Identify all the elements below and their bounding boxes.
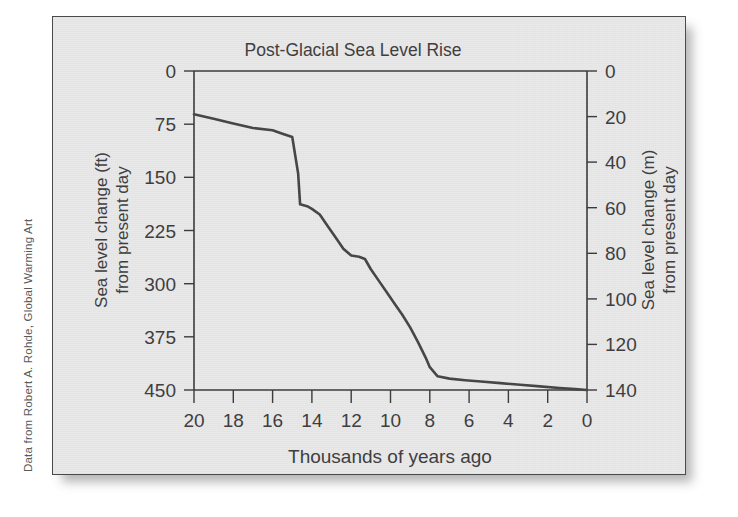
y-left-tick-375: 375: [144, 327, 176, 348]
y-axis-right-tick-labels: 0 20 40 60 80 100 120 140: [605, 61, 637, 401]
y-left-tick-300: 300: [144, 274, 176, 295]
y-axis-right-ticks: [587, 71, 597, 390]
x-tick-16: 16: [262, 410, 283, 431]
x-tick-2: 2: [542, 410, 553, 431]
chart-title: Post-Glacial Sea Level Rise: [245, 40, 462, 60]
y-axis-left-ticks: [184, 71, 194, 390]
y-axis-left-title-line2: from present day: [113, 166, 132, 294]
x-tick-14: 14: [301, 410, 323, 431]
y-left-tick-75: 75: [155, 114, 176, 135]
y-right-tick-100: 100: [605, 289, 637, 310]
x-tick-18: 18: [223, 410, 244, 431]
y-axis-left-tick-labels: 0 75 150 225 300 375 450: [144, 61, 176, 401]
y-left-tick-150: 150: [144, 167, 176, 188]
y-axis-right-title-line1: Sea level change (m): [639, 150, 658, 311]
y-right-tick-120: 120: [605, 334, 637, 355]
figure-panel: Post-Glacial Sea Level Rise 0 75 150 225…: [52, 16, 686, 475]
y-left-tick-450: 450: [144, 380, 176, 401]
sea-level-curve: [194, 114, 587, 390]
x-tick-0: 0: [582, 410, 593, 431]
x-tick-20: 20: [183, 410, 204, 431]
x-axis-tick-labels: 20 18 16 14 12 10 8 6 4 2 0: [183, 410, 592, 431]
x-axis-title: Thousands of years ago: [288, 446, 492, 467]
y-left-tick-0: 0: [165, 61, 176, 82]
y-axis-right-title: Sea level change (m) from present day: [639, 150, 679, 311]
y-right-tick-40: 40: [605, 152, 626, 173]
y-right-tick-20: 20: [605, 107, 626, 128]
y-right-tick-80: 80: [605, 243, 626, 264]
y-axis-left-title: Sea level change (ft) from present day: [92, 152, 132, 308]
attribution-text: Data from Robert A. Rohde, Global Warmin…: [22, 172, 44, 472]
y-left-tick-225: 225: [144, 221, 176, 242]
x-axis-ticks: [194, 390, 587, 403]
y-right-tick-60: 60: [605, 198, 626, 219]
x-tick-8: 8: [425, 410, 436, 431]
x-tick-10: 10: [380, 410, 401, 431]
y-axis-left-title-line1: Sea level change (ft): [92, 152, 111, 308]
x-tick-4: 4: [503, 410, 514, 431]
y-right-tick-140: 140: [605, 380, 637, 401]
y-axis-right-title-line2: from present day: [660, 166, 679, 294]
x-tick-12: 12: [341, 410, 362, 431]
y-right-tick-0: 0: [605, 61, 616, 82]
sea-level-rise-chart: Post-Glacial Sea Level Rise 0 75 150 225…: [53, 17, 687, 476]
x-tick-6: 6: [464, 410, 475, 431]
